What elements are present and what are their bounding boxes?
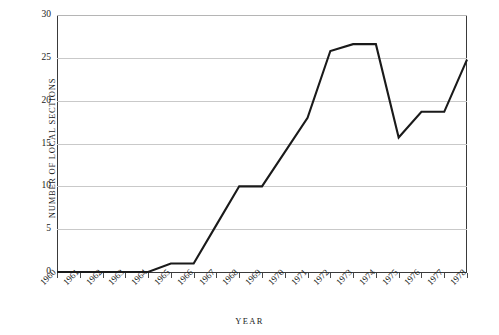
data-series-line <box>57 15 467 272</box>
y-axis-tick-label: 25 <box>17 52 51 62</box>
series-polyline <box>57 44 467 272</box>
y-axis-tick-label: 15 <box>17 138 51 148</box>
plot-area <box>57 15 467 272</box>
y-axis-tick-label: 20 <box>17 95 51 105</box>
x-axis-title: YEAR <box>0 316 499 326</box>
y-axis-tick-label: 5 <box>17 223 51 233</box>
y-axis-tick-label: 10 <box>17 180 51 190</box>
line-chart: NUMBER OF LOCAL SECTIONS YEAR 0510152025… <box>0 0 499 335</box>
y-axis-tick-label: 30 <box>17 9 51 19</box>
